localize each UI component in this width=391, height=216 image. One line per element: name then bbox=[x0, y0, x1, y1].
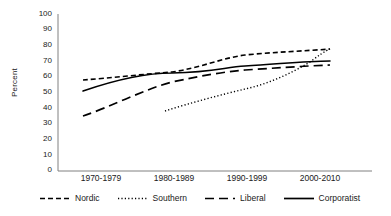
legend-label-nordic: Nordic bbox=[75, 193, 100, 203]
x-tick-1980-1989: 1980-1989 bbox=[135, 174, 213, 183]
legend-item-southern: Southern bbox=[118, 193, 188, 203]
legend-label-corporatist: Corporatist bbox=[319, 193, 361, 203]
series-line-southern bbox=[165, 49, 330, 111]
legend-item-corporatist: Corporatist bbox=[284, 193, 361, 203]
legend-item-liberal: Liberal bbox=[205, 193, 266, 203]
legend-label-southern: Southern bbox=[153, 193, 188, 203]
series-line-liberal bbox=[83, 65, 330, 116]
legend-swatch-dashed-icon bbox=[40, 194, 70, 203]
x-tick-2000-2010: 2000-2010 bbox=[281, 174, 359, 183]
legend-item-nordic: Nordic bbox=[40, 193, 100, 203]
legend-swatch-long-dashed-icon bbox=[205, 194, 235, 203]
chart-legend: Nordic Southern Liberal bbox=[40, 193, 380, 203]
line-chart: Percent 100 90 80 70 60 50 40 30 20 10 0… bbox=[0, 0, 391, 216]
plot-area bbox=[0, 0, 391, 216]
legend-label-liberal: Liberal bbox=[240, 193, 266, 203]
x-tick-1970-1979: 1970-1979 bbox=[62, 174, 140, 183]
legend-swatch-solid-icon bbox=[284, 194, 314, 203]
legend-swatch-dotted-icon bbox=[118, 194, 148, 203]
x-tick-1990-1999: 1990-1999 bbox=[208, 174, 286, 183]
